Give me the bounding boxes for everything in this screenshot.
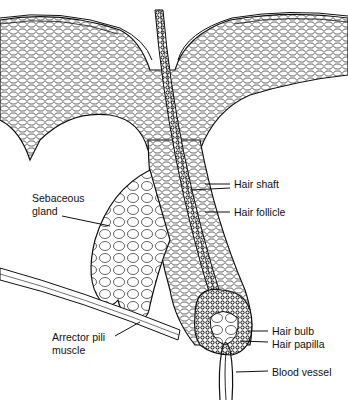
label-arrector-line1: Arrector pili [52,331,105,343]
label-hair-papilla: Hair papilla [272,338,325,350]
label-arrector-line2: muscle [52,344,85,356]
label-sebaceous-line2: gland [32,205,58,217]
label-hair-follicle: Hair follicle [234,206,285,218]
label-sebaceous-line1: Sebaceous [32,192,85,204]
label-hair-shaft: Hair shaft [234,178,279,190]
label-hair-bulb: Hair bulb [272,325,314,337]
hair-follicle-diagram: Hair shaft Hair follicle Sebaceous gland… [0,0,348,409]
label-blood-vessel: Blood vessel [272,366,332,378]
